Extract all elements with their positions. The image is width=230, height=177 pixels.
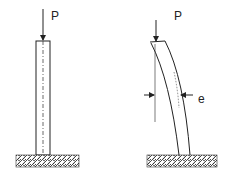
- load-label-p: P: [51, 9, 59, 23]
- ground-base: [16, 155, 79, 167]
- deflected-column-figure: P e: [144, 9, 217, 167]
- ground-base: [147, 155, 217, 167]
- column-top-edge: [150, 41, 165, 42]
- load-label-p: P: [174, 9, 182, 23]
- straight-column-figure: P: [16, 9, 79, 167]
- column-buckling-diagram: P P e: [0, 0, 230, 177]
- eccentricity-label-e: e: [198, 92, 205, 106]
- deflected-column-right-edge: [165, 41, 190, 155]
